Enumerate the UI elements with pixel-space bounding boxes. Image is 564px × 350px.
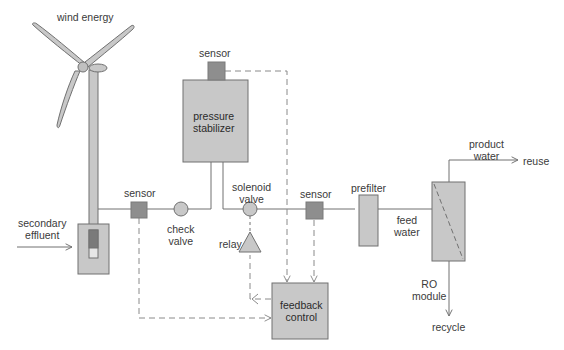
process-diagram bbox=[0, 0, 564, 350]
label-recycle: recycle bbox=[432, 321, 465, 333]
turbine-blade bbox=[32, 23, 85, 66]
turbine-tower bbox=[89, 70, 98, 230]
sensor-top bbox=[208, 62, 225, 80]
label-reuse: reuse bbox=[523, 155, 549, 167]
sensor-mid bbox=[306, 202, 323, 219]
wind-turbine bbox=[32, 23, 134, 230]
label-product-water: product water bbox=[469, 138, 504, 162]
label-check-valve: check valve bbox=[167, 223, 194, 247]
label-sensor-top: sensor bbox=[199, 47, 231, 59]
label-sensor-mid: sensor bbox=[300, 188, 332, 200]
effluent-tank bbox=[78, 224, 109, 274]
label-prefilter: prefilter bbox=[351, 182, 386, 194]
label-secondary-effluent: secondary effluent bbox=[18, 217, 66, 241]
turbine-blade bbox=[57, 71, 80, 128]
label-sensor-left: sensor bbox=[124, 187, 156, 199]
prefilter bbox=[359, 195, 378, 246]
relay bbox=[239, 232, 261, 252]
label-pressure-stabilizer: pressure stabilizer bbox=[193, 110, 234, 134]
label-wind-energy: wind energy bbox=[57, 11, 114, 23]
label-relay: relay bbox=[219, 238, 242, 250]
check-valve bbox=[174, 202, 188, 216]
pump bbox=[89, 230, 98, 248]
label-feed-water: feed water bbox=[394, 214, 420, 238]
label-ro-module: RO module bbox=[412, 278, 446, 302]
turbine-hub bbox=[78, 62, 88, 72]
sensor-left bbox=[131, 202, 147, 218]
label-solenoid-valve: solenoid valve bbox=[232, 181, 271, 205]
label-feedback-control: feedback control bbox=[280, 299, 323, 323]
turbine-blade bbox=[85, 25, 134, 67]
turbine-nacelle bbox=[89, 64, 107, 72]
product-water-line bbox=[449, 160, 518, 182]
